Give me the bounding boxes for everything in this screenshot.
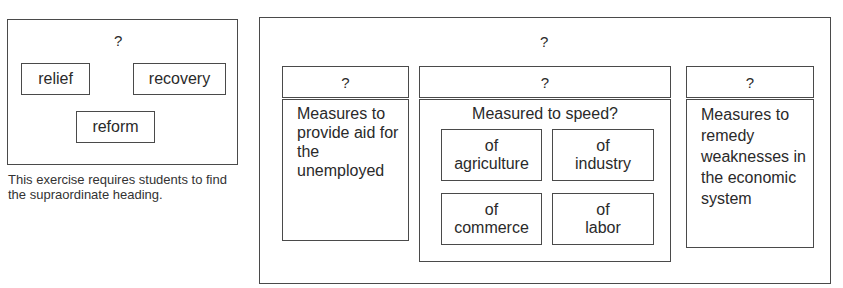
column-heading-label: ? bbox=[746, 74, 754, 91]
subitem-line1: of bbox=[596, 137, 609, 155]
subitem-industry: of industry bbox=[552, 129, 654, 181]
item-label: relief bbox=[38, 70, 73, 88]
item-label: recovery bbox=[149, 70, 210, 88]
left-heading-placeholder: ? bbox=[114, 32, 122, 49]
subitem-line2: labor bbox=[585, 219, 621, 237]
subitem-line1: of bbox=[485, 137, 498, 155]
subitem-line2: industry bbox=[575, 155, 631, 173]
subitem-agriculture: of agriculture bbox=[441, 129, 542, 181]
item-recovery: recovery bbox=[133, 63, 226, 95]
right-heading-placeholder: ? bbox=[540, 33, 548, 50]
column-2-text: Measured to speed? bbox=[419, 104, 671, 123]
item-label: reform bbox=[92, 118, 138, 136]
column-1-heading: ? bbox=[282, 66, 409, 98]
subitem-commerce: of commerce bbox=[441, 193, 542, 245]
column-3-text: Measures to remedy weaknesses in the eco… bbox=[701, 104, 811, 209]
column-heading-label: ? bbox=[541, 74, 549, 91]
subitem-line1: of bbox=[485, 201, 498, 219]
left-caption: This exercise requires students to find … bbox=[8, 172, 238, 202]
column-1-text: Measures to provide aid for the unemploy… bbox=[297, 104, 402, 180]
column-2-heading: ? bbox=[419, 66, 671, 98]
subitem-line1: of bbox=[596, 201, 609, 219]
item-relief: relief bbox=[21, 63, 90, 95]
subitem-line2: commerce bbox=[454, 219, 529, 237]
item-reform: reform bbox=[76, 111, 155, 143]
column-heading-label: ? bbox=[341, 74, 349, 91]
column-3-heading: ? bbox=[686, 66, 814, 98]
subitem-labor: of labor bbox=[552, 193, 654, 245]
subitem-line2: agriculture bbox=[454, 155, 529, 173]
